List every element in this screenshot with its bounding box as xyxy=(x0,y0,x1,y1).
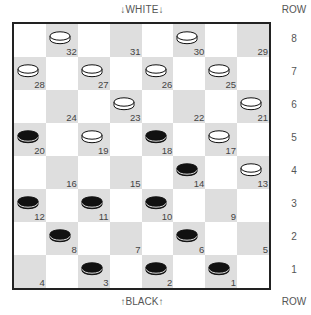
square-17[interactable]: 17 xyxy=(205,123,237,156)
white-checker-piece[interactable] xyxy=(240,163,262,177)
square-4[interactable]: 4 xyxy=(14,255,46,288)
square-24[interactable]: 24 xyxy=(46,90,78,123)
square-number: 30 xyxy=(194,47,205,57)
light-square[interactable] xyxy=(237,57,269,90)
light-square[interactable] xyxy=(173,123,205,156)
square-19[interactable]: 19 xyxy=(78,123,110,156)
square-number: 32 xyxy=(66,47,77,57)
square-number: 18 xyxy=(162,146,173,156)
square-12[interactable]: 12 xyxy=(14,189,46,222)
square-20[interactable]: 20 xyxy=(14,123,46,156)
square-13[interactable]: 13 xyxy=(237,156,269,189)
light-square[interactable] xyxy=(173,189,205,222)
black-checker-piece[interactable] xyxy=(81,196,103,210)
square-10[interactable]: 10 xyxy=(142,189,174,222)
light-square[interactable] xyxy=(78,222,110,255)
black-checker-piece[interactable] xyxy=(17,196,39,210)
light-square[interactable] xyxy=(205,24,237,57)
light-square[interactable] xyxy=(46,255,78,288)
light-square[interactable] xyxy=(237,189,269,222)
white-checker-piece[interactable] xyxy=(176,31,198,45)
light-square[interactable] xyxy=(14,90,46,123)
light-square[interactable] xyxy=(173,255,205,288)
white-checker-piece[interactable] xyxy=(17,64,39,78)
light-square[interactable] xyxy=(110,189,142,222)
black-checker-piece[interactable] xyxy=(176,229,198,243)
light-square[interactable] xyxy=(14,24,46,57)
square-1[interactable]: 1 xyxy=(205,255,237,288)
row-number-label: 2 xyxy=(280,231,308,242)
light-square[interactable] xyxy=(78,156,110,189)
light-square[interactable] xyxy=(46,189,78,222)
light-square[interactable] xyxy=(173,57,205,90)
white-checker-piece[interactable] xyxy=(49,31,71,45)
light-square[interactable] xyxy=(205,156,237,189)
square-25[interactable]: 25 xyxy=(205,57,237,90)
square-27[interactable]: 27 xyxy=(78,57,110,90)
square-11[interactable]: 11 xyxy=(78,189,110,222)
square-22[interactable]: 22 xyxy=(173,90,205,123)
square-8[interactable]: 8 xyxy=(46,222,78,255)
square-5[interactable]: 5 xyxy=(237,222,269,255)
square-26[interactable]: 26 xyxy=(142,57,174,90)
square-28[interactable]: 28 xyxy=(14,57,46,90)
square-number: 27 xyxy=(98,80,109,90)
light-square[interactable] xyxy=(142,24,174,57)
black-checker-piece[interactable] xyxy=(176,163,198,177)
black-checker-piece[interactable] xyxy=(145,262,167,276)
square-2[interactable]: 2 xyxy=(142,255,174,288)
light-square[interactable] xyxy=(142,156,174,189)
light-square[interactable] xyxy=(237,123,269,156)
white-checker-piece[interactable] xyxy=(113,97,135,111)
light-square[interactable] xyxy=(205,90,237,123)
square-21[interactable]: 21 xyxy=(237,90,269,123)
square-31[interactable]: 31 xyxy=(110,24,142,57)
square-number: 7 xyxy=(135,245,140,255)
square-23[interactable]: 23 xyxy=(110,90,142,123)
square-number: 26 xyxy=(162,80,173,90)
white-checker-piece[interactable] xyxy=(81,64,103,78)
white-checker-piece[interactable] xyxy=(208,130,230,144)
black-checker-piece[interactable] xyxy=(145,196,167,210)
light-square[interactable] xyxy=(110,123,142,156)
white-checker-piece[interactable] xyxy=(208,64,230,78)
light-square[interactable] xyxy=(142,222,174,255)
black-checker-piece[interactable] xyxy=(49,229,71,243)
square-number: 1 xyxy=(231,278,236,288)
white-checker-piece[interactable] xyxy=(145,64,167,78)
light-square[interactable] xyxy=(46,57,78,90)
white-checker-piece[interactable] xyxy=(240,97,262,111)
light-square[interactable] xyxy=(205,222,237,255)
light-square[interactable] xyxy=(14,156,46,189)
row-number-label: 8 xyxy=(280,33,308,44)
square-9[interactable]: 9 xyxy=(205,189,237,222)
light-square[interactable] xyxy=(110,255,142,288)
square-6[interactable]: 6 xyxy=(173,222,205,255)
square-14[interactable]: 14 xyxy=(173,156,205,189)
black-checker-piece[interactable] xyxy=(145,130,167,144)
white-checker-piece[interactable] xyxy=(81,130,103,144)
square-3[interactable]: 3 xyxy=(78,255,110,288)
square-29[interactable]: 29 xyxy=(237,24,269,57)
square-number: 25 xyxy=(226,80,237,90)
black-checker-piece[interactable] xyxy=(208,262,230,276)
row-header-bottom: ROW xyxy=(280,296,308,307)
square-30[interactable]: 30 xyxy=(173,24,205,57)
square-18[interactable]: 18 xyxy=(142,123,174,156)
light-square[interactable] xyxy=(237,255,269,288)
square-15[interactable]: 15 xyxy=(110,156,142,189)
light-square[interactable] xyxy=(142,90,174,123)
light-square[interactable] xyxy=(110,57,142,90)
square-16[interactable]: 16 xyxy=(46,156,78,189)
square-32[interactable]: 32 xyxy=(46,24,78,57)
square-number: 6 xyxy=(199,245,204,255)
black-checker-piece[interactable] xyxy=(81,262,103,276)
light-square[interactable] xyxy=(78,90,110,123)
light-square[interactable] xyxy=(14,222,46,255)
square-number: 19 xyxy=(98,146,109,156)
black-checker-piece[interactable] xyxy=(17,130,39,144)
light-square[interactable] xyxy=(78,24,110,57)
square-number: 29 xyxy=(257,47,268,57)
light-square[interactable] xyxy=(46,123,78,156)
square-7[interactable]: 7 xyxy=(110,222,142,255)
